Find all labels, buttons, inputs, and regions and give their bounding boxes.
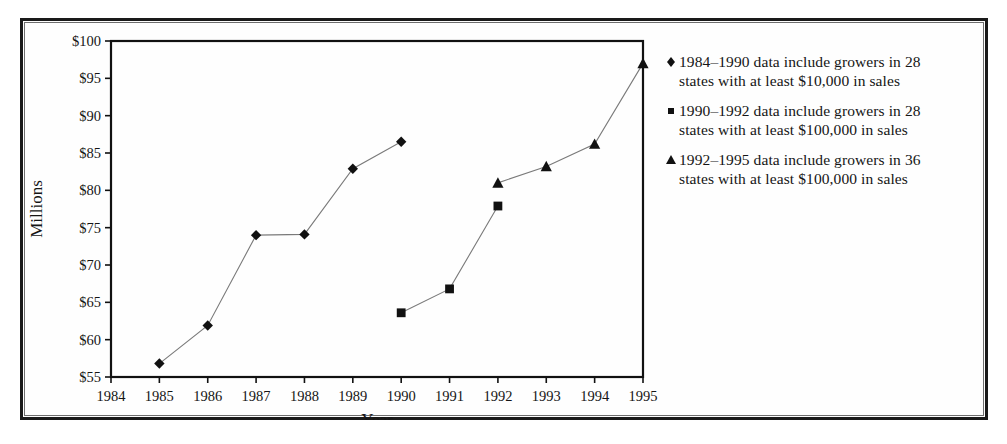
legend-line-1: 1992–1995 data include growers in 36 xyxy=(679,151,921,168)
chart-legend: 1984–1990 data include growers in 28stat… xyxy=(663,52,981,199)
data-point-square xyxy=(445,284,454,293)
x-tick-label: 1986 xyxy=(193,388,222,404)
legend-line-2: states with at least $10,000 in sales xyxy=(679,72,900,89)
y-tick-label: $100 xyxy=(72,33,101,49)
data-point-diamond xyxy=(251,230,261,240)
x-tick-label: 1991 xyxy=(435,388,464,404)
x-tick-label: 1984 xyxy=(97,388,127,404)
x-axis-title: Year xyxy=(361,410,393,420)
x-tick-label: 1989 xyxy=(338,388,367,404)
x-tick-label: 1985 xyxy=(145,388,174,404)
legend-line-2: states with at least $100,000 in sales xyxy=(679,170,908,187)
data-point-triangle xyxy=(637,58,648,68)
y-tick-label: $60 xyxy=(79,332,101,348)
data-point-diamond xyxy=(348,163,358,173)
y-tick-label: $75 xyxy=(79,220,101,236)
y-tick-label: $55 xyxy=(79,369,101,385)
legend-item-label: 1992–1995 data include growers in 36stat… xyxy=(679,150,921,188)
x-tick-label: 1994 xyxy=(580,388,610,404)
y-tick-label: $80 xyxy=(79,182,101,198)
triangle-marker-icon xyxy=(663,151,679,171)
data-point-triangle xyxy=(589,138,600,148)
data-point-triangle xyxy=(541,161,552,171)
series-line-square xyxy=(401,206,498,313)
y-tick-label: $90 xyxy=(79,108,101,124)
x-tick-label: 1995 xyxy=(629,388,658,404)
legend-item[interactable]: 1984–1990 data include growers in 28stat… xyxy=(663,52,981,90)
x-tick-label: 1992 xyxy=(483,388,512,404)
legend-item[interactable]: 1990–1992 data include growers in 28stat… xyxy=(663,101,981,139)
data-point-square xyxy=(397,308,406,317)
series-line-diamond xyxy=(159,142,401,364)
figure-canvas: $55$60$65$70$75$80$85$90$95$100198419851… xyxy=(0,0,1007,444)
legend-line-1: 1990–1992 data include growers in 28 xyxy=(679,102,921,119)
x-tick-label: 1987 xyxy=(242,388,271,404)
plot-group: $55$60$65$70$75$80$85$90$95$100198419851… xyxy=(27,33,658,420)
legend-line-1: 1984–1990 data include growers in 28 xyxy=(679,53,921,70)
legend-line-2: states with at least $100,000 in sales xyxy=(679,121,908,138)
data-point-diamond xyxy=(154,358,164,368)
y-tick-label: $70 xyxy=(79,257,101,273)
y-axis-title: Millions xyxy=(27,180,46,238)
y-tick-label: $65 xyxy=(79,294,101,310)
x-tick-label: 1990 xyxy=(387,388,416,404)
y-tick-label: $95 xyxy=(79,70,101,86)
diamond-marker-icon xyxy=(663,53,679,73)
series-line-triangle xyxy=(498,63,643,182)
data-point-diamond xyxy=(299,229,309,239)
x-tick-label: 1993 xyxy=(532,388,561,404)
x-tick-label: 1988 xyxy=(290,388,319,404)
plot-area-border xyxy=(111,41,643,377)
legend-item[interactable]: 1992–1995 data include growers in 36stat… xyxy=(663,150,981,188)
data-point-triangle xyxy=(492,177,503,187)
data-point-diamond xyxy=(203,320,213,330)
legend-item-label: 1984–1990 data include growers in 28stat… xyxy=(679,52,921,90)
legend-item-label: 1990–1992 data include growers in 28stat… xyxy=(679,101,921,139)
square-marker-icon xyxy=(663,102,679,122)
data-point-square xyxy=(494,202,503,211)
y-tick-label: $85 xyxy=(79,145,101,161)
data-point-diamond xyxy=(396,137,406,147)
